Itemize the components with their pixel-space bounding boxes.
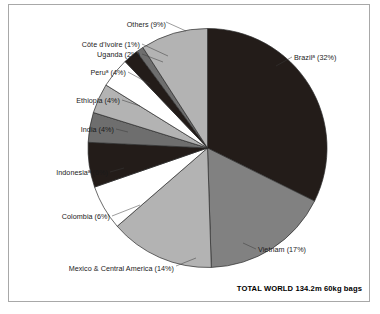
pie-label-indonesia-text: Indonesiaᵃ (6%) (56, 168, 108, 177)
pie-label-mexico-central-america: Mexico & Central America (14%) (26, 264, 174, 273)
pie-label-ethiopia-text: Ethiopia (4%) (76, 96, 120, 105)
pie-label-indonesia: Indonesiaᵃ (6%) (10, 168, 108, 177)
pie-label-uganda: Uganda (2%) (32, 50, 140, 59)
pie-chart-figure: Others (9%) Côte d'Ivoire (1%) Uganda (2… (0, 0, 380, 314)
pie-label-india: India (4%) (22, 125, 114, 134)
pie-label-peru: Peruᵃ (4%) (26, 68, 126, 77)
total-world-note: TOTAL WORLD 134.2m 60kg bags (237, 284, 362, 293)
pie-label-vietnam-text: Vietnam (17%) (258, 245, 306, 254)
pie-label-ethiopia: Ethiopia (4%) (20, 96, 120, 105)
pie-label-brazil: Brazilᵃ (32%) (294, 53, 374, 62)
pie-label-uganda-text: Uganda (2%) (97, 50, 140, 59)
pie-label-colombia: Colombia (6%) (18, 212, 110, 221)
pie-slice-group (88, 29, 327, 268)
pie-label-mexico-central-america-text: Mexico & Central America (14%) (69, 264, 174, 273)
pie-label-vietnam: Vietnam (17%) (258, 245, 358, 254)
pie-label-india-text: India (4%) (81, 125, 114, 134)
pie-label-others: Others (9%) (66, 20, 166, 29)
pie-label-others-text: Others (9%) (127, 20, 166, 29)
leader-line (166, 22, 186, 31)
pie-label-cote-divoire: Côte d'Ivoire (1%) (32, 40, 140, 49)
pie-label-cote-divoire-text: Côte d'Ivoire (1%) (82, 40, 140, 49)
pie-label-brazil-text: Brazilᵃ (32%) (294, 53, 336, 62)
pie-label-peru-text: Peruᵃ (4%) (90, 68, 126, 77)
pie-label-colombia-text: Colombia (6%) (62, 212, 110, 221)
